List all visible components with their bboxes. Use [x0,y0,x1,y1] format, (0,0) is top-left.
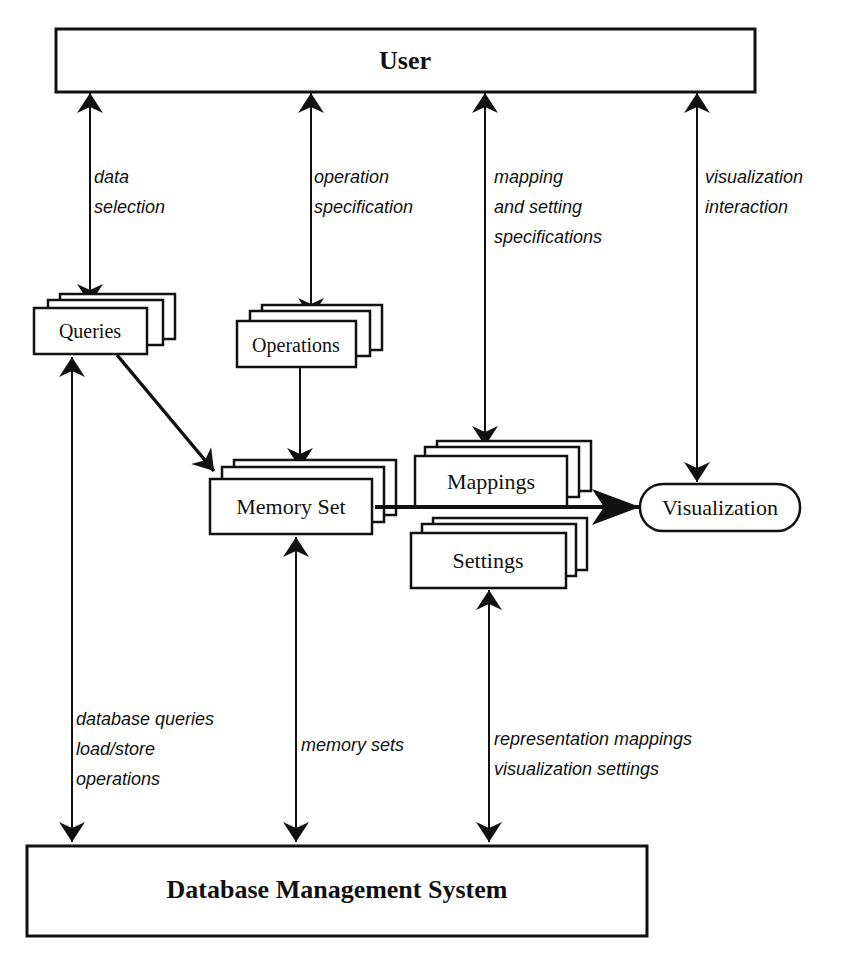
arrow-queries-to-memory-set [117,355,214,471]
label-db-queries: database queries load/store operations [76,709,219,789]
memory-set-label: Memory Set [236,494,345,519]
mappings-label: Mappings [447,469,535,494]
label-memory-sets: memory sets [301,735,404,755]
label-mapping-setting-spec: mapping and setting specifications [494,167,602,247]
mappings-node: Mappings [415,441,591,507]
label-visualization-interaction: visualization interaction [705,167,808,217]
label-data-selection: data selection [94,167,165,217]
operations-node: Operations [237,305,382,367]
operations-label: Operations [252,334,340,357]
queries-node: Queries [34,294,175,354]
architecture-diagram: User data selection operation specificat… [0,0,847,968]
memory-set-node: Memory Set [210,460,396,534]
visualization-node: Visualization [640,484,800,531]
queries-label: Queries [59,320,121,342]
user-node: User [56,29,755,92]
dbms-node: Database Management System [27,846,647,936]
user-label: User [379,46,431,75]
label-operation-specification: operation specification [314,167,413,217]
settings-label: Settings [453,548,524,573]
visualization-label: Visualization [662,495,778,520]
label-representation: representation mappings visualization se… [494,729,697,779]
dbms-label: Database Management System [167,875,508,904]
settings-node: Settings [411,518,587,588]
